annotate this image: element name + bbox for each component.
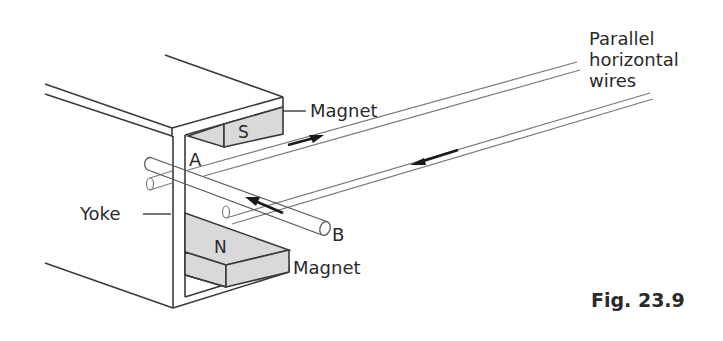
pole-label-north: N: [214, 237, 227, 257]
magnet-south-side-face: [188, 124, 224, 147]
figure-caption: Fig. 23.9: [591, 289, 685, 311]
label-magnet-bottom: Magnet: [293, 257, 361, 278]
upper-wire-end-cap: [147, 178, 154, 190]
diagram-figure: S N: [0, 0, 723, 341]
yoke-top-left-edge-outer: [45, 84, 172, 128]
label-point-a: A: [189, 149, 202, 170]
lower-wire-edge-2: [232, 99, 653, 224]
yoke-bottom-left-edge: [45, 263, 173, 308]
arrow-right-icon: [309, 135, 324, 143]
label-yoke: Yoke: [79, 203, 120, 224]
pole-label-south: S: [238, 122, 249, 142]
label-wires-line2: horizontal: [589, 49, 679, 70]
yoke-top-left-edge-inner: [45, 94, 172, 136]
label-magnet-top: Magnet: [310, 100, 378, 121]
diagram-canvas: S N: [0, 0, 723, 341]
magnet-south-front-face: [224, 107, 283, 147]
rod-edge-bottom: [148, 170, 322, 235]
magnet-south: [188, 107, 283, 147]
current-arrows: [245, 135, 458, 213]
magnet-north: [185, 213, 289, 287]
arrow-left-icon: [410, 158, 426, 165]
arrow-up-left-icon: [245, 197, 260, 206]
rod-edge-top: [152, 158, 328, 222]
label-wires-line1: Parallel: [589, 28, 655, 49]
upper-wire-edge-1: [188, 62, 577, 170]
lower-wire-end-cap: [223, 206, 230, 218]
label-wires-line3: wires: [589, 70, 636, 91]
yoke-top-back-edge: [165, 55, 283, 97]
arrow-lower-wire: [410, 150, 458, 165]
rod-end-a-cap: [145, 158, 152, 170]
label-point-b: B: [332, 224, 344, 245]
